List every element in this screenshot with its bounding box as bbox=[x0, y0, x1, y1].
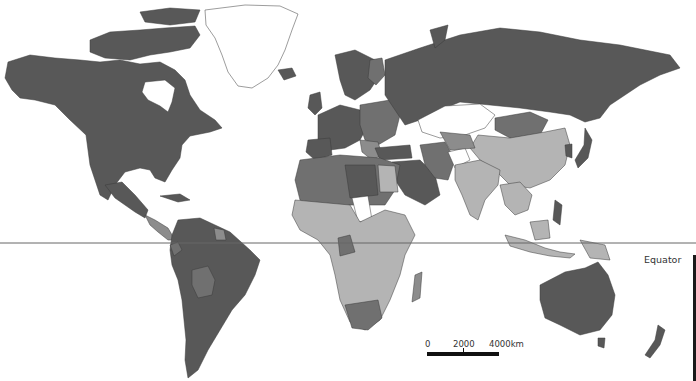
region-arctic-islands bbox=[90, 26, 200, 60]
region-korea bbox=[565, 144, 572, 158]
region-madagascar bbox=[412, 272, 422, 302]
region-russia bbox=[385, 28, 680, 125]
world-map bbox=[0, 0, 696, 381]
scale-bar: 0 2000 4000km bbox=[425, 339, 505, 361]
region-arctic-islands-2 bbox=[140, 8, 200, 25]
scale-label-0: 0 bbox=[425, 339, 430, 349]
region-borneo bbox=[530, 220, 550, 240]
region-central-america bbox=[145, 215, 175, 240]
region-north-america bbox=[5, 55, 222, 200]
region-mexico bbox=[105, 182, 148, 218]
region-egypt bbox=[378, 165, 398, 192]
region-uk bbox=[308, 92, 322, 115]
region-india bbox=[455, 160, 500, 220]
region-cuba bbox=[160, 194, 190, 202]
scale-tick-mid bbox=[463, 348, 464, 353]
region-south-africa bbox=[345, 300, 382, 330]
region-iceland bbox=[278, 68, 296, 80]
region-tasmania bbox=[598, 338, 605, 348]
equator-label: Equator bbox=[644, 254, 681, 265]
region-south-america bbox=[170, 218, 260, 378]
region-turkey bbox=[375, 145, 412, 160]
scale-label-4000km: 4000km bbox=[489, 339, 524, 349]
region-japan bbox=[575, 128, 592, 168]
region-new-zealand bbox=[645, 325, 665, 358]
region-australia bbox=[540, 262, 615, 335]
region-libya bbox=[345, 165, 378, 198]
region-philippines bbox=[553, 200, 562, 225]
